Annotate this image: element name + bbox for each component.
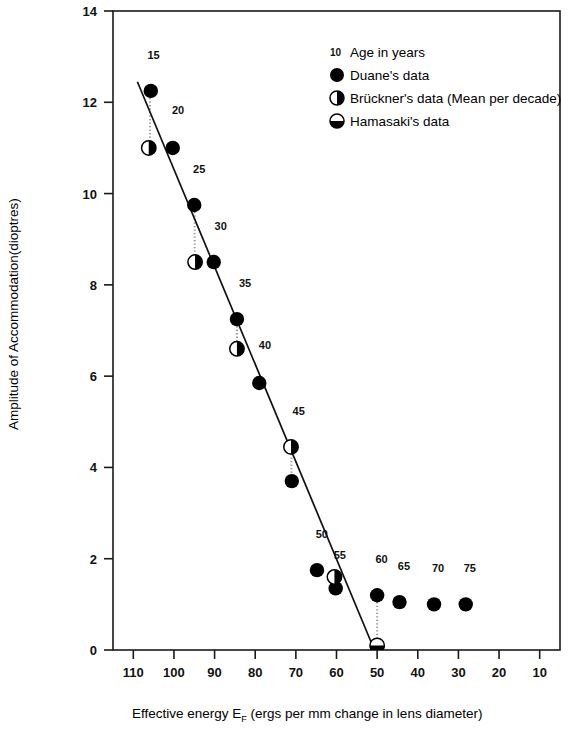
x-tick-label: 40	[411, 665, 425, 680]
x-tick-label: 50	[370, 665, 384, 680]
data-point	[230, 342, 244, 356]
age-label: 25	[193, 163, 205, 175]
data-point	[252, 376, 266, 390]
y-tick-label: 6	[90, 369, 97, 384]
marker-filled-circle	[370, 588, 384, 602]
age-label: 40	[259, 339, 271, 351]
x-tick-label: 10	[532, 665, 546, 680]
legend-label: Brückner's data (Mean per decade)	[350, 91, 561, 106]
age-label: 75	[464, 562, 476, 574]
data-point	[427, 597, 441, 611]
x-axis-title-main: Effective energy E	[132, 706, 241, 721]
marker-filled-circle	[310, 563, 324, 577]
legend-label: Age in years	[350, 45, 425, 60]
marker-filled-circle	[392, 595, 406, 609]
data-point	[310, 563, 324, 577]
legend-age-sample: 10	[330, 47, 342, 58]
chart-svg: 110100908070605040302010 02468101214 152…	[0, 0, 572, 732]
age-label: 15	[148, 49, 160, 61]
data-point	[459, 597, 473, 611]
x-tick-label: 100	[163, 665, 185, 680]
age-label: 70	[432, 562, 444, 574]
legend-label: Hamasaki's data	[350, 114, 450, 129]
marker-filled-circle	[144, 84, 158, 98]
data-point	[327, 570, 341, 584]
x-tick-label: 20	[492, 665, 506, 680]
data-point	[392, 595, 406, 609]
data-point	[370, 588, 384, 602]
data-point	[284, 440, 298, 454]
x-tick-label: 30	[451, 665, 465, 680]
y-tick-label: 8	[90, 278, 97, 293]
x-tick-label: 110	[123, 665, 144, 680]
x-axis-title-rest: (ergs per mm change in lens diameter)	[247, 706, 483, 721]
y-tick-label: 2	[90, 552, 97, 567]
y-axis-title: Amplitude of Accommodation(dioptres)	[6, 198, 21, 430]
marker-filled-circle	[427, 597, 441, 611]
data-point	[166, 141, 180, 155]
marker-filled-circle	[187, 198, 201, 212]
data-point	[207, 255, 221, 269]
age-label: 20	[172, 104, 184, 116]
age-label: 65	[398, 560, 410, 572]
data-point	[144, 84, 158, 98]
marker-filled-circle	[166, 141, 180, 155]
age-label: 50	[316, 528, 328, 540]
marker-filled-circle	[330, 68, 344, 82]
marker-filled-circle	[207, 255, 221, 269]
age-label: 45	[293, 405, 305, 417]
legend-label: Duane's data	[350, 68, 430, 83]
age-label: 60	[375, 553, 387, 565]
marker-filled-circle	[285, 474, 299, 488]
accommodation-vs-effective-energy-chart: 110100908070605040302010 02468101214 152…	[0, 0, 572, 732]
data-point	[142, 141, 156, 155]
marker-filled-circle	[230, 312, 244, 326]
data-point	[188, 255, 202, 269]
x-tick-label: 70	[289, 665, 303, 680]
age-label: 35	[239, 277, 251, 289]
x-tick-label: 80	[248, 665, 262, 680]
marker-filled-circle	[252, 376, 266, 390]
y-tick-label: 14	[83, 4, 98, 19]
age-label: 55	[334, 549, 346, 561]
data-point	[187, 198, 201, 212]
y-tick-label: 10	[83, 187, 97, 202]
x-tick-label: 90	[207, 665, 221, 680]
y-tick-label: 0	[90, 643, 97, 658]
marker-filled-circle	[459, 597, 473, 611]
age-label: 30	[215, 220, 227, 232]
data-point	[285, 474, 299, 488]
x-tick-label: 60	[329, 665, 343, 680]
y-tick-label: 4	[90, 460, 98, 475]
data-point	[230, 312, 244, 326]
y-tick-label: 12	[83, 95, 97, 110]
